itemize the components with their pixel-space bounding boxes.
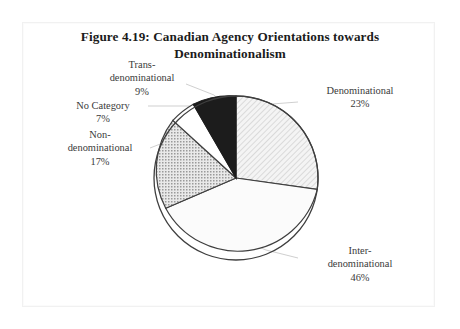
pie-label-inter-denominational: Inter- denominational 46%: [300, 244, 420, 284]
pie-label-denominational-name: Denominational: [327, 85, 394, 96]
pie-label-trans-denominational: Trans- denominational 9%: [96, 58, 188, 98]
pie-label-denominational: Denominational 23%: [300, 84, 420, 111]
pie-slices: [154, 96, 318, 260]
figure-page: Figure 4.19: Canadian Agency Orientation…: [0, 0, 460, 329]
pie-label-no-category-name: No Category: [76, 100, 129, 111]
pie-label-non-line1: Non-: [89, 129, 110, 140]
pie-label-non-value: 17%: [50, 155, 150, 168]
pie-label-trans-line2: denominational: [110, 72, 175, 83]
pie-label-denominational-value: 23%: [300, 97, 420, 110]
pie-label-no-category-value: 7%: [58, 112, 148, 125]
pie-label-inter-value: 46%: [300, 271, 420, 284]
pie-label-trans-value: 9%: [96, 85, 188, 98]
pie-label-trans-line1: Trans-: [129, 59, 156, 70]
pie-label-non-denominational: Non- denominational 17%: [50, 128, 150, 168]
pie-label-no-category: No Category 7%: [58, 99, 148, 126]
pie-label-non-line2: denominational: [68, 142, 133, 153]
pie-label-inter-line1: Inter-: [349, 245, 372, 256]
pie-label-inter-line2: denominational: [328, 258, 393, 269]
